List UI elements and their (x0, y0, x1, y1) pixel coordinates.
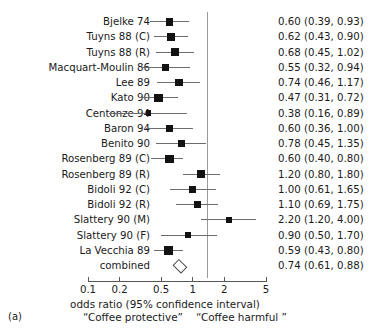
effect-estimate-label: 1.10 (0.69, 1.75) (278, 197, 364, 212)
x-tick-0.1 (88, 277, 89, 282)
point-estimate-marker (171, 48, 179, 56)
x-tick-label-2: 2 (221, 283, 227, 296)
point-estimate-marker (175, 79, 182, 86)
point-estimate-marker (178, 140, 185, 147)
study-label: Bidoli 92 (C) (87, 182, 150, 197)
forest-plot: Bjelke 740.60 (0.39, 0.93)Tuyns 88 (C)0.… (0, 0, 392, 328)
point-estimate-marker (194, 201, 201, 208)
x-tick-0.5 (161, 277, 162, 282)
effect-estimate-label: 0.60 (0.40, 0.80) (278, 151, 364, 166)
effect-estimate-label: 0.60 (0.39, 0.93) (278, 14, 364, 29)
x-tick-label-5: 5 (263, 283, 269, 296)
x-tick-label-0.1: 0.1 (80, 283, 96, 296)
x-tick-0.2 (119, 277, 120, 282)
x-tick-label-0.5: 0.5 (153, 283, 169, 296)
point-estimate-marker (167, 33, 175, 41)
x-tick-5 (266, 277, 267, 282)
summary-row: combined0.74 (0.61, 0.88) (0, 258, 392, 273)
study-row: Slattery 90 (F)0.90 (0.50, 1.70) (0, 228, 392, 243)
effect-estimate-label: 1.20 (0.80, 1.80) (278, 167, 364, 182)
study-row: Rosenberg 89 (C)0.60 (0.40, 0.80) (0, 151, 392, 166)
study-row: Slattery 90 (M)2.20 (1.20, 4.00) (0, 212, 392, 227)
effect-estimate-label: 0.60 (0.36, 1.00) (278, 121, 364, 136)
panel-letter: (a) (8, 311, 22, 322)
combined-effect-diamond (173, 259, 188, 274)
effect-estimate-label: 0.55 (0.32, 0.94) (278, 60, 364, 75)
x-tick-1 (192, 277, 193, 282)
point-estimate-marker (146, 110, 151, 115)
study-row: Bidoli 92 (R)1.10 (0.69, 1.75) (0, 197, 392, 212)
point-estimate-marker (197, 170, 205, 178)
effect-estimate-label: 0.47 (0.31, 0.72) (278, 90, 364, 105)
study-label: Tuyns 88 (R) (87, 45, 150, 60)
study-row: Bjelke 740.60 (0.39, 0.93) (0, 14, 392, 29)
x-tick-label-0.2: 0.2 (111, 283, 127, 296)
study-label: Rosenberg 89 (R) (61, 167, 150, 182)
point-estimate-marker (154, 94, 162, 102)
study-row: Baron 940.60 (0.36, 1.00) (0, 121, 392, 136)
annotation-coffee-harmful: “Coffee harmful ” (196, 311, 287, 323)
point-estimate-marker (162, 64, 169, 71)
effect-estimate-label: 0.59 (0.43, 0.80) (278, 243, 364, 258)
study-row: Tuyns 88 (R)0.68 (0.45, 1.02) (0, 45, 392, 60)
x-axis-title: odds ratio (95% confidence interval) (0, 298, 330, 310)
study-row: La Vecchia 890.59 (0.43, 0.80) (0, 243, 392, 258)
study-row: Lee 890.74 (0.46, 1.17) (0, 75, 392, 90)
point-estimate-marker (166, 18, 174, 26)
x-tick-2 (224, 277, 225, 282)
study-label: Rosenberg 89 (C) (61, 151, 150, 166)
study-row: Bidoli 92 (C)1.00 (0.61, 1.65) (0, 182, 392, 197)
study-label: Bjelke 74 (103, 14, 150, 29)
study-row: Tuyns 88 (C)0.62 (0.43, 0.90) (0, 29, 392, 44)
x-tick-label-1: 1 (190, 283, 196, 296)
effect-estimate-label: 0.74 (0.61, 0.88) (278, 258, 364, 273)
study-row: Benito 900.78 (0.45, 1.35) (0, 136, 392, 151)
effect-estimate-label: 0.74 (0.46, 1.17) (278, 75, 364, 90)
study-label: Macquart-Moulin 86 (49, 60, 150, 75)
effect-estimate-label: 2.20 (1.20, 4.00) (278, 212, 364, 227)
point-estimate-marker (226, 217, 232, 223)
effect-estimate-label: 0.78 (0.45, 1.35) (278, 136, 364, 151)
plot-area: Bjelke 740.60 (0.39, 0.93)Tuyns 88 (C)0.… (0, 0, 392, 282)
x-axis-line (88, 281, 266, 282)
study-row: Macquart-Moulin 860.55 (0.32, 0.94) (0, 60, 392, 75)
study-label: combined (100, 258, 150, 273)
study-label: Baron 94 (104, 121, 150, 136)
study-row: Centonze 940.38 (0.16, 0.89) (0, 106, 392, 121)
study-label: Slattery 90 (M) (74, 212, 150, 227)
point-estimate-marker (164, 246, 173, 255)
point-estimate-marker (189, 186, 196, 193)
study-label: Lee 89 (116, 75, 150, 90)
effect-estimate-label: 0.68 (0.45, 1.02) (278, 45, 364, 60)
effect-estimate-label: 0.90 (0.50, 1.70) (278, 228, 364, 243)
study-label: Tuyns 88 (C) (87, 29, 150, 44)
annotation-coffee-protective: “Coffee protective” (83, 311, 183, 323)
study-row: Rosenberg 89 (R)1.20 (0.80, 1.80) (0, 167, 392, 182)
study-label: Slattery 90 (F) (77, 228, 150, 243)
point-estimate-marker (165, 155, 174, 164)
effect-estimate-label: 0.62 (0.43, 0.90) (278, 29, 364, 44)
study-row: Kato 900.47 (0.31, 0.72) (0, 90, 392, 105)
effect-estimate-label: 0.38 (0.16, 0.89) (278, 106, 364, 121)
study-label: La Vecchia 89 (79, 243, 150, 258)
point-estimate-marker (166, 125, 173, 132)
study-label: Bidoli 92 (R) (87, 197, 150, 212)
study-label: Benito 90 (101, 136, 150, 151)
effect-estimate-label: 1.00 (0.61, 1.65) (278, 182, 364, 197)
point-estimate-marker (185, 232, 192, 239)
